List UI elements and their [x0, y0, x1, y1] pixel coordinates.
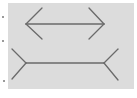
top-fin-line: [26, 24, 42, 39]
bottom-fin-line: [12, 49, 26, 63]
bottom-fin-line: [104, 63, 118, 80]
bottom-fin-line: [12, 63, 26, 79]
top-fin-line: [89, 24, 104, 39]
top-arrow-figure: [26, 8, 104, 39]
muller-lyer-figure: [0, 0, 137, 98]
bottom-arrow-figure: [12, 49, 118, 80]
bottom-fin-line: [104, 49, 118, 63]
top-fin-line: [89, 8, 104, 24]
top-fin-line: [26, 8, 42, 24]
